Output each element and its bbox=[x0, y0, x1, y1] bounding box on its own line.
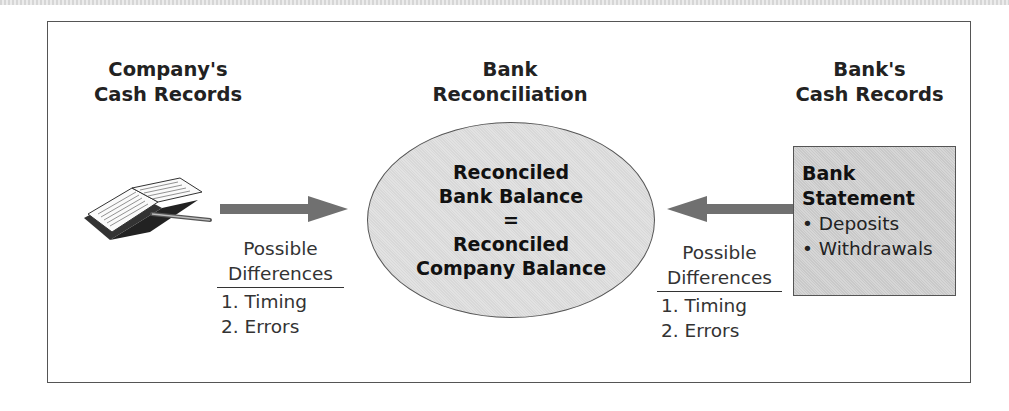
header-line: Company's bbox=[88, 57, 248, 82]
statement-bullet-deposits: • Deposits bbox=[802, 211, 955, 236]
oval-line: Company Balance bbox=[416, 256, 606, 280]
differences-title-underlined: Differences bbox=[657, 265, 782, 292]
top-edge-strip bbox=[0, 0, 1009, 5]
reconciliation-oval: Reconciled Bank Balance = Reconciled Com… bbox=[367, 122, 655, 318]
header-line: Cash Records bbox=[88, 82, 248, 107]
right-possible-differences: Possible Differences 1. Timing 2. Errors bbox=[657, 240, 782, 343]
header-line: Cash Records bbox=[782, 82, 957, 107]
header-line: Reconciliation bbox=[420, 82, 600, 107]
oval-line: Bank Balance bbox=[439, 184, 583, 208]
differences-title: Possible bbox=[217, 236, 344, 261]
differences-title-underlined: Differences bbox=[217, 261, 344, 288]
difference-item: 1. Timing bbox=[657, 293, 782, 318]
oval-line: Reconciled bbox=[453, 160, 569, 184]
statement-title: Statement bbox=[802, 186, 955, 211]
difference-item: 2. Errors bbox=[217, 314, 344, 339]
header-line: Bank's bbox=[782, 57, 957, 82]
equals-sign: = bbox=[503, 208, 519, 232]
statement-title: Bank bbox=[802, 161, 955, 186]
differences-title: Possible bbox=[657, 240, 782, 265]
arrow-left-icon bbox=[665, 196, 795, 222]
oval-line: Reconciled bbox=[453, 232, 569, 256]
difference-item: 1. Timing bbox=[217, 289, 344, 314]
left-possible-differences: Possible Differences 1. Timing 2. Errors bbox=[217, 236, 344, 339]
bank-reconciliation-header: Bank Reconciliation bbox=[420, 57, 600, 107]
bank-cash-records-header: Bank's Cash Records bbox=[782, 57, 957, 107]
company-cash-records-header: Company's Cash Records bbox=[88, 57, 248, 107]
statement-bullet-withdrawals: • Withdrawals bbox=[802, 236, 955, 261]
bank-statement-box: Bank Statement • Deposits • Withdrawals bbox=[793, 146, 956, 296]
difference-item: 2. Errors bbox=[657, 318, 782, 343]
arrow-right-icon bbox=[220, 196, 350, 222]
header-line: Bank bbox=[420, 57, 600, 82]
open-book-with-pen-icon bbox=[80, 170, 220, 250]
